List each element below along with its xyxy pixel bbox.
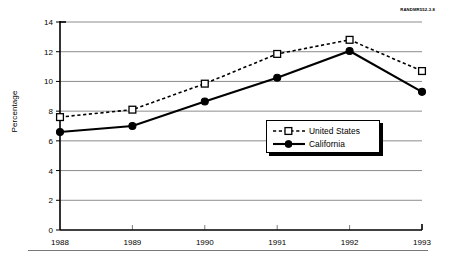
x-tick-label-1993: 1993 (413, 238, 431, 247)
y-tick-label-8: 8 (49, 107, 54, 116)
legend-swatch-dashed-open-square-icon (272, 125, 306, 137)
data-point-united-states-1992 (346, 36, 353, 43)
legend-item-california: California (272, 137, 374, 150)
data-point-united-states-1988 (57, 114, 64, 121)
x-tick-label-1988: 1988 (51, 238, 69, 247)
series-lines-group (60, 40, 422, 132)
data-point-united-states-1989 (129, 106, 136, 113)
chart-legend: United States California (266, 120, 380, 153)
y-tick-label-14: 14 (44, 18, 53, 27)
bottom-divider (28, 250, 428, 251)
y-tick-label-12: 12 (44, 48, 53, 57)
legend-label-california: California (306, 139, 345, 149)
data-point-united-states-1991 (274, 51, 281, 58)
legend-swatch-solid-filled-circle-icon (272, 138, 306, 150)
data-point-california-1988 (57, 128, 64, 135)
legend-item-united-states: United States (272, 124, 374, 137)
data-point-california-1993 (419, 88, 426, 95)
x-axis-tick-labels: 198819891990199119921993 (51, 238, 431, 247)
figure-container: RANDMR552-3.8 Percentage 02468101214 198… (0, 0, 449, 258)
y-tick-label-6: 6 (49, 137, 54, 146)
data-point-california-1990 (201, 98, 208, 105)
y-tick-label-4: 4 (49, 167, 54, 176)
y-tick-label-2: 2 (49, 196, 54, 205)
data-point-united-states-1990 (201, 80, 208, 87)
x-tick-label-1990: 1990 (196, 238, 214, 247)
y-tick-label-10: 10 (44, 77, 53, 86)
x-tick-label-1989: 1989 (124, 238, 142, 247)
legend-label-united-states: United States (306, 126, 360, 136)
data-point-california-1989 (129, 123, 136, 130)
data-point-california-1991 (274, 74, 281, 81)
data-point-california-1992 (346, 47, 353, 54)
x-tick-label-1991: 1991 (268, 238, 286, 247)
x-tick-label-1992: 1992 (341, 238, 359, 247)
y-axis-tick-labels: 02468101214 (44, 18, 53, 235)
data-point-united-states-1993 (419, 68, 426, 75)
y-tick-label-0: 0 (49, 226, 54, 235)
